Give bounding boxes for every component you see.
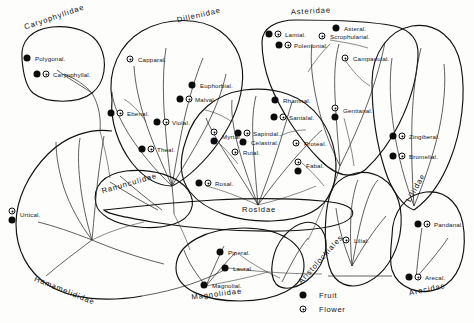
order-label-rhamnal: Rhamnal.: [283, 97, 311, 104]
order-label-capparal: Capparal.: [138, 56, 166, 63]
flower-icon-myrtal: [211, 129, 218, 136]
vein-hamamelididae-1: [56, 142, 92, 240]
fruit-icon-caryophyllal: [34, 71, 41, 78]
flower-icon-theal: [148, 146, 155, 153]
diagram-artwork: [0, 0, 474, 323]
order-label-lilial: Lilial.: [354, 237, 369, 244]
vein-rosidae-7: [258, 186, 316, 205]
order-label-arecal: Arecal.: [425, 274, 445, 281]
connector-7: [330, 40, 368, 48]
fruit-icon-gentianal: [332, 114, 339, 121]
flower-icon-rosal: [205, 180, 212, 187]
order-label-proteal: Proteal.: [304, 140, 327, 147]
vein-caryophyllidae-stem: [92, 93, 100, 131]
vein-hamamelididae-7: [92, 222, 144, 240]
order-label-malval: Malval.: [195, 96, 216, 103]
flower-icon-santalal: [280, 114, 287, 121]
vein-asteridae-4: [345, 60, 370, 86]
order-label-bromelial: Bromelial.: [409, 153, 438, 160]
vein-hamamelididae-6: [92, 240, 164, 264]
order-label-rosal: Rosal.: [215, 180, 233, 187]
fruit-icon-asteral: [333, 25, 340, 32]
fruit-icon-bromelial: [390, 153, 397, 160]
fruit-icon-celastral: [240, 139, 247, 146]
order-label-fabal: Fabal.: [306, 162, 324, 169]
fruit-icon-laural: [222, 265, 229, 272]
order-label-violal: Violal.: [172, 119, 190, 126]
flower-icon-fabal: [295, 159, 302, 166]
vein-rosidae-6: [206, 186, 258, 205]
flower-icon-gentianal: [332, 105, 339, 112]
vein-dilleniidae-1: [163, 48, 172, 186]
flower-icon-violal: [163, 119, 170, 126]
order-label-caryophyllal: Caryophyllal.: [53, 71, 91, 78]
fruit-icon-theal: [139, 146, 146, 153]
fruit-icon-ebenal: [108, 110, 115, 117]
vein-dilleniidae-2: [134, 66, 172, 186]
flower-icon-bromelial: [399, 153, 406, 160]
order-label-euphorbial: Euphorbial.: [200, 82, 233, 89]
fruit-icon-euphorbial: [189, 82, 196, 89]
order-label-laural: Laural.: [233, 265, 253, 272]
order-label-santalal: Santalal.: [289, 114, 314, 121]
connector-3: [308, 200, 326, 240]
flower-icon-zingiberal: [399, 133, 406, 140]
fruit-icon-zingiberal: [390, 133, 397, 140]
flower-icon-campanulal: [342, 55, 349, 62]
order-label-zingiberal: Zingiberal.: [409, 133, 440, 140]
legend-label-flower: Flower: [319, 305, 345, 314]
fruit-icon-arecal: [406, 274, 413, 281]
fruit-icon-myrtal: [211, 138, 218, 145]
flower-icon-rutal: [232, 149, 239, 156]
order-label-sapindal: Sapindal.: [253, 130, 280, 137]
flower-icon-polemonial: [285, 42, 292, 49]
order-label-myrtal: Myrtal.: [222, 133, 242, 140]
vein-hamamelididae-2: [79, 138, 93, 240]
fruit-icon-violal: [154, 119, 161, 126]
fruit-icon-malval: [177, 96, 184, 103]
flower-icon-proteal: [293, 140, 300, 147]
flower-icon-ebenal: [117, 110, 124, 117]
flower-icon-malval: [186, 96, 193, 103]
order-label-polemonial: Polemonial.: [294, 42, 328, 49]
bubble-caryophyllidae: [22, 27, 105, 102]
legend-label-fruit: Fruit: [319, 291, 337, 300]
order-label-polygonal: Polygonal.: [35, 55, 65, 62]
flower-icon-sapindal: [244, 130, 251, 137]
vein-arecidae-2: [416, 238, 448, 278]
connector-6: [344, 118, 354, 166]
fruit-icon-lamial: [266, 31, 273, 38]
flower-icon-capparal: [127, 56, 134, 63]
diagram-canvas: Polygonal.Caryophyllal.Capparal.Ebenal.E…: [0, 0, 474, 323]
fruit-icon-santalal: [271, 114, 278, 121]
vein-asteridae-stem: [326, 166, 340, 200]
vein-arecidae-1: [416, 228, 422, 278]
fruit-icon-polygonal: [24, 55, 31, 62]
order-label-celastral: Celastral.: [251, 139, 279, 146]
order-label-urtical: Urtical.: [20, 211, 40, 218]
flower-icon-arecal: [415, 274, 422, 281]
fruit-icon-rhamnal: [272, 97, 279, 104]
vein-lilial-1: [352, 180, 378, 266]
bubble-rosidae-outer: [104, 199, 353, 232]
order-label-ebenal: Ebenal.: [127, 110, 149, 117]
fruit-icon: [300, 292, 307, 299]
vein-dilleniidae-4: [172, 74, 226, 186]
order-label-campanulal: Campanulal.: [353, 55, 389, 62]
flower-icon-urtical: [9, 208, 16, 215]
vein-dilleniidae-stem: [172, 186, 174, 214]
order-label-lamial: Lamial.: [285, 31, 306, 38]
flower-icon-caryophyllal: [43, 71, 50, 78]
bubble-lilial: [325, 172, 401, 285]
flower-icon: [300, 306, 307, 313]
fruit-icon-fabal: [295, 168, 302, 175]
flower-icon-pandanal: [424, 221, 431, 228]
flower-icon-scrophularial: [319, 33, 326, 40]
vein-hamamelididae-4: [38, 222, 92, 240]
flower-icon-lamial: [275, 31, 282, 38]
fruit-icon-rosal: [196, 180, 203, 187]
fruit-icon-magnolial: [201, 282, 208, 289]
order-label-scrophularial: Scrophularial.: [330, 33, 370, 40]
order-label-rutal: Rutal.: [243, 149, 260, 156]
fruit-icon-urtical: [9, 217, 16, 224]
